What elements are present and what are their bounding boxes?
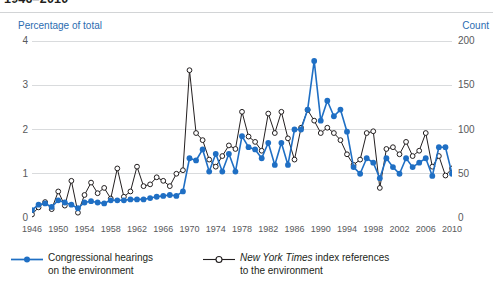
right-tick-label: 150 — [458, 79, 475, 90]
x-tick-label: 2002 — [389, 224, 409, 234]
legend-entry-nyt: New York Times index references to the e… — [240, 252, 389, 277]
left-tick-label: 2 — [22, 124, 28, 135]
x-tick-label: 1970 — [179, 224, 199, 234]
right-tick-label: 200 — [458, 35, 475, 46]
x-tick-label: 1974 — [206, 224, 226, 234]
left-tick-label: 1 — [22, 168, 28, 179]
right-tick-label: 100 — [458, 124, 475, 135]
x-tick-label: 1982 — [258, 224, 278, 234]
x-tick-label: 1986 — [284, 224, 304, 234]
left-tick-label: 4 — [22, 35, 28, 46]
right-tick-label: 50 — [458, 168, 469, 179]
series-nyt-line — [32, 68, 452, 217]
plot-area — [32, 41, 452, 218]
legend-label-nyt-line1: New York Times index references — [240, 252, 389, 265]
header-divider — [0, 12, 493, 13]
x-tick-label: 1978 — [232, 224, 252, 234]
chart-figure: 1946–2010 Percentage of total Count 4321… — [0, 0, 493, 294]
right-axis-ticks: 200150100500 — [458, 0, 490, 294]
legend-label-hearings-line1: Congressional hearings — [48, 252, 153, 265]
legend-label-nyt-italic: New York Times — [240, 252, 313, 263]
left-tick-label: 0 — [22, 212, 28, 223]
left-tick-label: 3 — [22, 79, 28, 90]
plot-svg — [32, 41, 452, 218]
x-tick-label: 1998 — [363, 224, 383, 234]
x-tick-label: 1994 — [337, 224, 357, 234]
legend-label-nyt-rest: index references — [313, 252, 390, 263]
x-tick-label: 1946 — [22, 224, 42, 234]
x-tick-label: 1962 — [127, 224, 147, 234]
x-tick-label: 1990 — [311, 224, 331, 234]
x-tick-label: 1966 — [153, 224, 173, 234]
left-axis-ticks: 43210 — [10, 0, 28, 294]
chart-legend: Congressional hearings on the environmen… — [0, 252, 493, 292]
legend-label-nyt-line2: to the environment — [240, 265, 389, 278]
chart-title-strip: 1946–2010 — [0, 0, 493, 9]
x-tick-label: 1954 — [74, 224, 94, 234]
gridlines — [32, 41, 452, 218]
x-tick-label: 2010 — [442, 224, 462, 234]
x-tick-label: 1950 — [48, 224, 68, 234]
legend-swatch-nyt-icon — [202, 255, 236, 264]
left-axis-caption: Percentage of total — [18, 20, 102, 31]
x-tick-label: 2006 — [416, 224, 436, 234]
x-tick-label: 1958 — [101, 224, 121, 234]
right-tick-label: 0 — [458, 212, 464, 223]
legend-swatch-hearings-icon — [10, 255, 44, 264]
legend-entry-hearings: Congressional hearings on the environmen… — [48, 252, 153, 277]
legend-label-hearings-line2: on the environment — [48, 265, 153, 278]
